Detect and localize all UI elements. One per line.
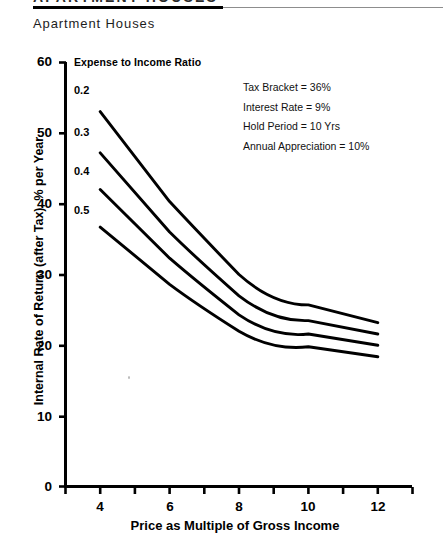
curve-series-1 [100,153,378,334]
y-axis-title: Internal Rate of Return (after Tax), % p… [32,126,46,416]
curve-label-series-0: 0.2 [74,84,89,96]
x-tick-label: 8 [224,499,254,514]
x-axis-title: Price as Multiple of Gross Income [60,518,410,533]
x-tick-label: 4 [85,499,115,514]
y-tick-label: 0 [22,479,52,494]
curve-label-series-1: 0.3 [74,126,89,138]
y-tick-label: 60 [22,54,52,69]
x-tick-label: 10 [293,499,323,514]
chart-figure: 60 50 40 30 20 10 0 4 6 8 10 12 Internal… [0,0,443,547]
scan-speck [128,376,130,379]
annotation-tax-bracket: Tax Bracket = 36% [243,78,433,98]
annotation-hold-period: Hold Period = 10 Yrs [243,117,433,137]
x-tick-label: 6 [155,499,185,514]
curve-series-2 [100,190,378,346]
x-tick-label: 12 [363,499,393,514]
curve-label-series-3: 0.5 [74,204,89,216]
curve-label-series-2: 0.4 [74,165,89,177]
annotation-interest-rate: Interest Rate = 9% [243,98,433,118]
chart-annotations: Tax Bracket = 36% Interest Rate = 9% Hol… [243,78,433,156]
x-tick-marks [66,487,413,494]
series-group-label: Expense to Income Ratio [74,56,201,68]
annotation-annual-appreciation: Annual Appreciation = 10% [243,137,433,157]
